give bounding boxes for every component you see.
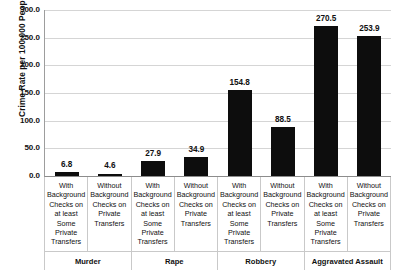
y-tick-label: 100.0: [6, 117, 40, 125]
x-axis-label: With Background Checks on at least Some …: [45, 177, 88, 251]
bar[interactable]: [55, 172, 79, 176]
y-tick-label: 250.0: [6, 34, 40, 42]
bar-value-label: 6.8: [61, 160, 72, 169]
bar-slot: 4.6: [88, 10, 131, 176]
bar-value-label: 34.9: [188, 145, 204, 154]
bar-slot: 6.8: [45, 10, 88, 176]
y-axis-tick-labels: 300.0 250.0 200.0 150.0 100.0 50.0 0.0: [6, 0, 40, 272]
x-axis-group-label: Murder: [45, 252, 132, 270]
x-axis-group-label: Robbery: [218, 252, 305, 270]
bar[interactable]: [98, 174, 122, 177]
x-axis-group-labels: Murder Rape Robbery Aggravated Assault: [44, 251, 391, 270]
x-axis-label: Without Background Checks on Private Tra…: [261, 177, 304, 251]
bars-layer: 6.8 4.6 27.9 34.9 154.8 88.5: [45, 10, 391, 176]
bar[interactable]: [314, 26, 338, 176]
y-tick-label: 50.0: [6, 144, 40, 152]
bar-value-label: 27.9: [145, 149, 161, 158]
y-tick-label: 200.0: [6, 61, 40, 69]
bar[interactable]: [228, 90, 252, 176]
bar-slot: 27.9: [132, 10, 175, 176]
bar-slot: 34.9: [175, 10, 218, 176]
x-axis-category-labels: With Background Checks on at least Some …: [44, 177, 391, 251]
bar[interactable]: [141, 161, 165, 176]
bar[interactable]: [357, 36, 381, 177]
x-axis-group-label: Aggravated Assault: [305, 252, 391, 270]
y-tick-label: 0.0: [6, 172, 40, 180]
bar-value-label: 154.8: [229, 78, 250, 87]
y-tick-label: 150.0: [6, 89, 40, 97]
y-tick-label: 300.0: [6, 6, 40, 14]
x-axis-label: With Background Checks on at least Some …: [132, 177, 175, 251]
x-axis-label: With Background Checks on at least Some …: [305, 177, 348, 251]
x-axis-label: Without Background Checks on Private Tra…: [175, 177, 218, 251]
bar-value-label: 4.6: [104, 161, 115, 170]
x-axis-label: With Background Checks on at least Some …: [218, 177, 261, 251]
plot-area: 6.8 4.6 27.9 34.9 154.8 88.5: [44, 10, 391, 177]
bar[interactable]: [184, 157, 208, 176]
x-axis-label: Without Background Checks on Private Tra…: [348, 177, 390, 251]
bar-value-label: 88.5: [275, 115, 291, 124]
bar-value-label: 270.5: [316, 14, 337, 23]
bar-slot: 270.5: [305, 10, 348, 176]
bar-chart: Crime Rate per 100,000 People 300.0 250.…: [0, 0, 396, 272]
x-axis-label: Without Background Checks on Private Tra…: [88, 177, 131, 251]
bar[interactable]: [271, 127, 295, 176]
bar-value-label: 253.9: [359, 24, 380, 33]
bar-slot: 88.5: [261, 10, 304, 176]
bar-slot: 154.8: [218, 10, 261, 176]
bar-slot: 253.9: [348, 10, 391, 176]
x-axis-group-label: Rape: [132, 252, 219, 270]
